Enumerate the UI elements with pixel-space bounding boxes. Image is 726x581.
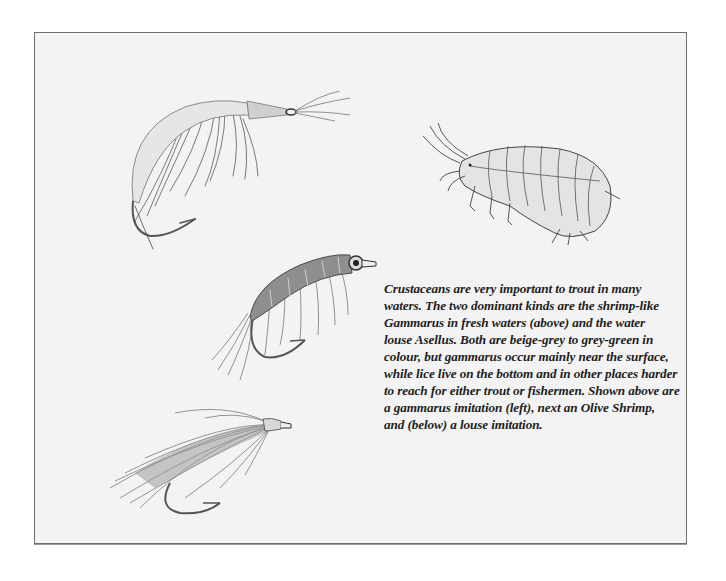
caption-line: and (below) a louse imitation. <box>384 416 684 433</box>
louse-imitation-fly-illustration <box>105 403 305 518</box>
gammarus-drawing-illustration <box>420 121 635 246</box>
caption-line: a gammarus imitation (left), next an Oli… <box>384 399 684 416</box>
caption-line: waters. The two dominant kinds are the s… <box>384 297 684 314</box>
olive-shrimp-fly-illustration <box>210 245 380 385</box>
gammarus-imitation-fly-illustration <box>125 91 355 251</box>
caption-line: Crustaceans are very important to trout … <box>384 280 684 297</box>
caption-line: louse Asellus. Both are beige-grey to gr… <box>384 331 684 348</box>
caption-line: to reach for either trout or fishermen. … <box>384 382 684 399</box>
caption-line: while lice live on the bottom and in oth… <box>384 365 684 382</box>
caption-text: Crustaceans are very important to trout … <box>384 280 684 433</box>
caption-line: colour, but gammarus occur mainly near t… <box>384 348 684 365</box>
illustration-panel: Crustaceans are very important to trout … <box>34 32 687 544</box>
caption-line: Gammarus in fresh waters (above) and the… <box>384 314 684 331</box>
